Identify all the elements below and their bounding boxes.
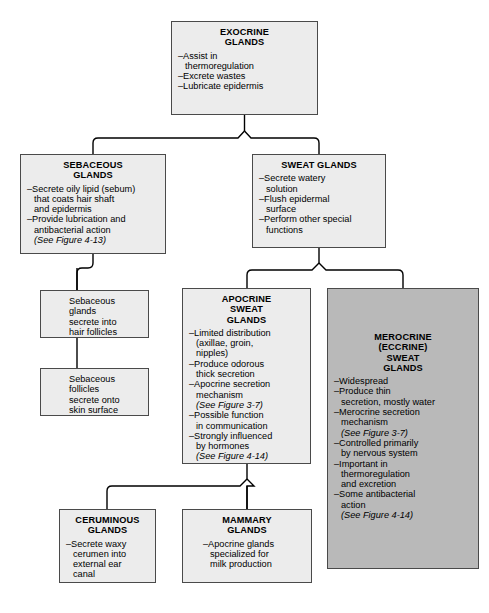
title-line: MAMMARY (189, 515, 305, 525)
node-bullets: –Secrete oily lipid (sebum) that coats h… (27, 184, 159, 246)
edge-sweat-to-apocrine (247, 263, 319, 288)
node-ceruminous-glands[interactable]: CERUMINOUS GLANDS –Secrete waxy cerumen … (59, 509, 156, 583)
title-line: EXOCRINE (178, 27, 311, 37)
node-sweat-glands[interactable]: SWEAT GLANDS –Secrete watery solution –F… (252, 154, 386, 248)
bullet-item: –Merocrine secretion mechanism (334, 407, 472, 428)
bullet-item: –Some antibacterial action (334, 489, 472, 510)
node-title: EXOCRINE GLANDS (178, 27, 311, 48)
node-title: SWEAT GLANDS (259, 160, 379, 170)
bullet-item: –Secrete watery solution (259, 173, 379, 194)
bullet-item: –Provide lubrication and antibacterial a… (27, 214, 159, 235)
node-bullets: –Assist in thermoregulation –Excrete was… (178, 51, 311, 92)
title-line: GLANDS (27, 170, 159, 180)
node-bullets: –Limited distribution (axillae, groin, n… (189, 328, 304, 462)
node-sebaceous-glands-hair-follicles[interactable]: Sebaceous glands secrete into hair folli… (40, 290, 149, 338)
node-merocrine-eccrine-sweat-glands[interactable]: MEROCRINE (ECCRINE) SWEAT GLANDS –Widesp… (327, 288, 479, 569)
title-line: CERUMINOUS (66, 515, 149, 525)
node-title: CERUMINOUS GLANDS (66, 515, 149, 536)
figure-reference: (See Figure 3-7) (334, 428, 472, 438)
node-bullets: –Apocrine glands specialized for milk pr… (189, 539, 305, 570)
node-title: APOCRINE SWEAT GLANDS (189, 294, 304, 325)
node-exocrine-glands[interactable]: EXOCRINE GLANDS –Assist in thermoregulat… (171, 21, 318, 115)
title-line: GLANDS (66, 525, 149, 535)
node-bullets: –Widespread –Produce thin secretion, mos… (334, 376, 472, 520)
bullet-item: –Strongly influenced by hormones (189, 431, 304, 452)
title-line: APOCRINE (189, 294, 304, 304)
bullet-item: –Produce thin secretion, mostly water (334, 386, 472, 407)
bullet-item: –Lubricate epidermis (178, 81, 311, 91)
bullet-item: –Produce odorous thick secretion (189, 359, 304, 380)
figure-reference: (See Figure 4-14) (189, 451, 304, 461)
node-sebaceous-glands[interactable]: SEBACEOUS GLANDS –Secrete oily lipid (se… (20, 154, 166, 254)
bullet-item: –Excrete wastes (178, 71, 311, 81)
figure-reference: (See Figure 3-7) (189, 400, 304, 410)
node-sebaceous-follicles-skin-surface[interactable]: Sebaceous follicles secrete onto skin su… (40, 368, 149, 416)
bullet-item: –Important in thermoregulation and excre… (334, 459, 472, 490)
edge-sweat-to-merocrine (319, 263, 403, 288)
edge-exocrine-to-sweat (245, 131, 320, 154)
node-mammary-glands[interactable]: MAMMARY GLANDS –Apocrine glands speciali… (182, 509, 312, 583)
title-line: GLANDS (189, 525, 305, 535)
title-line: SWEAT GLANDS (259, 160, 379, 170)
title-line: GLANDS (189, 315, 304, 325)
figure-reference: (See Figure 4-13) (27, 235, 159, 245)
bullet-item: –Apocrine secretion mechanism (189, 379, 304, 400)
node-title: MAMMARY GLANDS (189, 515, 305, 536)
title-line: GLANDS (178, 37, 311, 47)
node-bullets: –Secrete watery solution –Flush epiderma… (259, 173, 379, 235)
title-line: (ECCRINE) (334, 342, 472, 352)
title-line: SWEAT (189, 304, 304, 314)
node-bullets: –Secrete waxy cerumen into external ear … (66, 539, 149, 580)
title-line: MEROCRINE (334, 332, 472, 342)
node-title: SEBACEOUS GLANDS (27, 160, 159, 181)
edge-apocrine-to-ceruminous (107, 479, 247, 509)
title-line: GLANDS (334, 363, 472, 373)
node-text: Sebaceous follicles secrete onto skin su… (47, 374, 142, 415)
bullet-item: –Assist in thermoregulation (178, 51, 311, 72)
title-line: SEBACEOUS (27, 160, 159, 170)
bullet-item: –Perform other special functions (259, 214, 379, 235)
bullet-item: –Controlled primarily by nervous system (334, 438, 472, 459)
figure-reference: (See Figure 4-14) (334, 510, 472, 520)
edge-exocrine-to-sebaceous (93, 131, 245, 154)
bullet-item: –Limited distribution (axillae, groin, n… (189, 328, 304, 359)
bullet-item: –Apocrine glands specialized for milk pr… (203, 539, 305, 570)
bullet-item: –Secrete oily lipid (sebum) that coats h… (27, 184, 159, 215)
edge-apocrine-to-mammary (247, 479, 254, 509)
diagram-canvas: EXOCRINE GLANDS –Assist in thermoregulat… (0, 0, 489, 613)
node-title: MEROCRINE (ECCRINE) SWEAT GLANDS (334, 332, 472, 373)
bullet-item: –Secrete waxy cerumen into external ear … (66, 539, 149, 580)
title-line: SWEAT (334, 353, 472, 363)
node-text: Sebaceous glands secrete into hair folli… (47, 296, 142, 337)
node-apocrine-sweat-glands[interactable]: APOCRINE SWEAT GLANDS –Limited distribut… (182, 288, 311, 464)
bullet-item: –Possible function in communication (189, 410, 304, 431)
bullet-item: –Widespread (334, 376, 472, 386)
bullet-item: –Flush epidermal surface (259, 194, 379, 215)
